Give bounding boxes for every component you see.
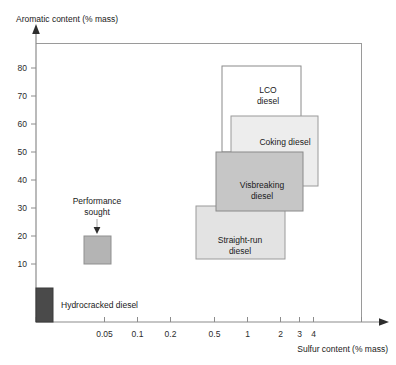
x-tick-label-2: 2	[278, 329, 283, 339]
data-box-visbreaking-diesel[interactable]: Visbreaking diesel	[216, 152, 303, 211]
coking-diesel-label: Coking diesel	[259, 137, 310, 147]
visbreaking-diesel-label-line1: Visbreaking	[240, 180, 285, 190]
y-tick-label-10: 10	[18, 259, 28, 269]
data-box-straight-run-diesel[interactable]: Straight-run diesel	[196, 206, 285, 259]
y-tick-label-30: 30	[18, 203, 28, 213]
performance-sought-arrowhead-icon	[94, 227, 101, 234]
hydrocracked-diesel-label: Hydrocracked diesel	[61, 300, 138, 310]
y-axis	[32, 24, 40, 322]
y-axis-arrowhead	[32, 24, 40, 34]
chart-container: 80 70 60 50 40 30 20 10 0.05 0.1 0.2	[0, 0, 396, 365]
x-axis-ticks	[36, 317, 362, 322]
x-axis-title: Sulfur content (% mass)	[297, 344, 388, 354]
y-tick-label-20: 20	[18, 231, 28, 241]
data-box-hydrocracked-diesel[interactable]: Hydrocracked diesel	[36, 288, 138, 322]
aromatic-vs-sulfur-scatter-chart: 80 70 60 50 40 30 20 10 0.05 0.1 0.2	[0, 0, 396, 365]
x-tick-label-4: 4	[311, 329, 316, 339]
data-box-performance-sought[interactable]	[84, 236, 111, 264]
straight-run-diesel-label-line1: Straight-run	[218, 235, 263, 245]
y-tick-label-40: 40	[18, 175, 28, 185]
straight-run-diesel-label-line2: diesel	[229, 246, 251, 256]
performance-sought-label-line1: Performance	[73, 196, 122, 206]
x-axis-tick-labels: 0.05 0.1 0.2 0.5 1 2 3 4	[96, 329, 316, 339]
y-tick-label-50: 50	[18, 147, 28, 157]
x-tick-label-1: 1	[245, 329, 250, 339]
x-tick-label-0.5: 0.5	[209, 329, 221, 339]
y-tick-label-80: 80	[18, 63, 28, 73]
hydrocracked-diesel-rect[interactable]	[36, 288, 53, 322]
x-axis-arrowhead	[379, 318, 389, 326]
x-tick-label-3: 3	[297, 329, 302, 339]
performance-sought-annotation: Performance sought	[73, 196, 122, 234]
visbreaking-diesel-label-line2: diesel	[251, 191, 273, 201]
y-tick-label-70: 70	[18, 91, 28, 101]
performance-sought-rect[interactable]	[84, 236, 111, 264]
lco-diesel-label-line2: diesel	[257, 96, 279, 106]
x-axis	[36, 318, 389, 326]
x-tick-label-0.05: 0.05	[96, 329, 113, 339]
y-axis-title: Aromatic content (% mass)	[16, 14, 118, 24]
y-tick-label-60: 60	[18, 119, 28, 129]
x-tick-label-0.1: 0.1	[132, 329, 144, 339]
y-axis-tick-labels: 80 70 60 50 40 30 20 10	[18, 63, 28, 269]
lco-diesel-label-line1: LCO	[259, 85, 277, 95]
y-axis-ticks	[31, 68, 36, 264]
performance-sought-label-line2: sought	[84, 207, 110, 217]
x-tick-label-0.2: 0.2	[165, 329, 177, 339]
